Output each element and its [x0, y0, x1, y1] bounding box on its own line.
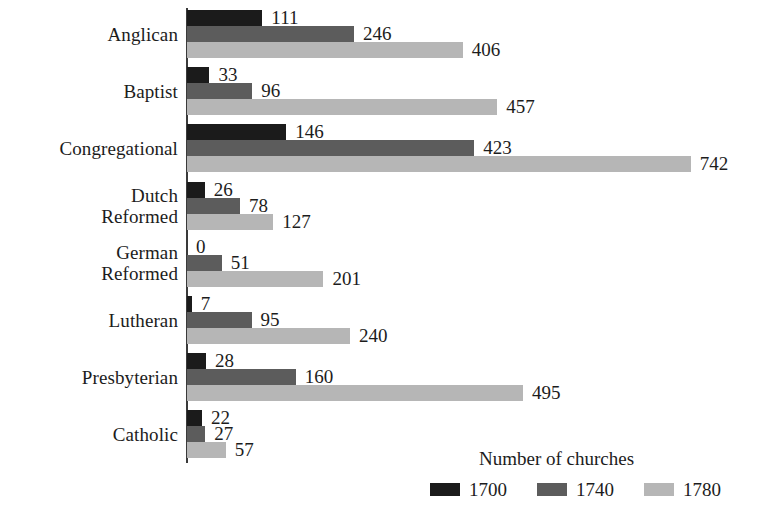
bar-value-label: 160: [305, 367, 334, 386]
category-label: Congregational: [0, 138, 178, 159]
bar-value-label: 95: [261, 310, 280, 329]
bar-1780: [187, 156, 691, 172]
bar-1740: [187, 255, 222, 271]
legend-swatch-1740: [537, 483, 567, 496]
bar-1700: [187, 182, 205, 198]
bar-value-label: 96: [261, 81, 280, 100]
bar-1700: [187, 124, 286, 140]
bar-value-label: 27: [214, 425, 233, 444]
bar-1740: [187, 312, 252, 328]
bar-value-label: 423: [483, 139, 512, 158]
category-label: Dutch Reformed: [0, 185, 178, 227]
bar-value-label: 26: [214, 180, 233, 199]
bar-1740: [187, 198, 240, 214]
bar-1700: [187, 67, 209, 83]
bar-1780: [187, 42, 463, 58]
bar-value-label: 28: [215, 351, 234, 370]
bar-1740: [187, 426, 205, 442]
legend-swatch-1700: [430, 483, 460, 496]
bar-value-label: 742: [700, 155, 729, 174]
bar-value-label: 240: [359, 326, 388, 345]
bar-value-label: 78: [249, 196, 268, 215]
category-label: Presbyterian: [0, 367, 178, 388]
churches-bar-chart: Anglican111246406Baptist3396457Congregat…: [0, 0, 760, 526]
bar-1780: [187, 328, 350, 344]
bar-1740: [187, 83, 252, 99]
legend-label-1780: 1780: [683, 480, 721, 499]
legend-item-1700[interactable]: 1700: [430, 480, 507, 499]
category-label: Lutheran: [0, 310, 178, 331]
bar-value-label: 51: [231, 253, 250, 272]
bar-1700: [187, 353, 206, 369]
category-label: Anglican: [0, 24, 178, 45]
bar-1700: [187, 10, 262, 26]
bar-1740: [187, 140, 474, 156]
legend-item-1780[interactable]: 1780: [644, 480, 721, 499]
bar-value-label: 0: [196, 237, 206, 256]
bar-1780: [187, 214, 273, 230]
bar-value-label: 457: [506, 97, 535, 116]
legend-entries: 170017401780: [430, 480, 750, 499]
bar-1740: [187, 369, 296, 385]
bar-1740: [187, 26, 354, 42]
bar-value-label: 33: [218, 65, 237, 84]
plot-area: Anglican111246406Baptist3396457Congregat…: [0, 0, 760, 470]
legend-label-1700: 1700: [469, 480, 507, 499]
bar-value-label: 7: [201, 294, 211, 313]
bar-1780: [187, 442, 226, 458]
bar-1780: [187, 385, 523, 401]
bar-1780: [187, 271, 323, 287]
bar-value-label: 201: [332, 269, 361, 288]
bar-1700: [187, 410, 202, 426]
legend-item-1740[interactable]: 1740: [537, 480, 614, 499]
bar-1700: [187, 296, 192, 312]
bar-value-label: 495: [532, 383, 561, 402]
bar-value-label: 111: [271, 8, 298, 27]
category-label: Catholic: [0, 424, 178, 445]
category-label: Baptist: [0, 81, 178, 102]
category-label: German Reformed: [0, 242, 178, 284]
bar-value-label: 57: [235, 441, 254, 460]
legend-label-1740: 1740: [576, 480, 614, 499]
bar-1780: [187, 99, 497, 115]
bar-value-label: 246: [363, 24, 392, 43]
legend-title: Number of churches: [479, 448, 634, 470]
legend-swatch-1780: [644, 483, 674, 496]
bar-value-label: 146: [295, 123, 324, 142]
bar-value-label: 406: [472, 40, 501, 59]
bar-value-label: 127: [282, 212, 311, 231]
